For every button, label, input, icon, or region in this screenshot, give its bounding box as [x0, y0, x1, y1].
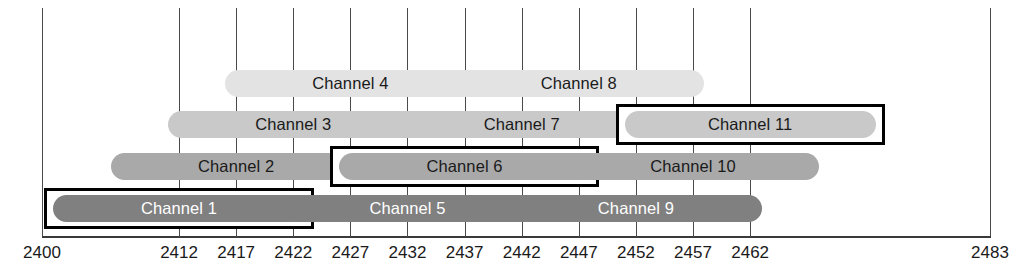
- tick-label-2427: 2427: [331, 243, 369, 263]
- tick-label-2447: 2447: [560, 243, 598, 263]
- tick-label-2462: 2462: [731, 243, 769, 263]
- channel-bar-channel-1[interactable]: Channel 1: [53, 195, 304, 222]
- axis-left-endcap: [42, 8, 43, 237]
- channel-bar-channel-2[interactable]: Channel 2: [111, 153, 362, 180]
- channel-bar-channel-9[interactable]: Channel 9: [510, 195, 761, 222]
- channel-bar-channel-7[interactable]: Channel 7: [396, 111, 647, 138]
- tick-label-2442: 2442: [503, 243, 541, 263]
- channel-bar-channel-3[interactable]: Channel 3: [168, 111, 419, 138]
- tick-label-2417: 2417: [217, 243, 255, 263]
- channel-bar-channel-5[interactable]: Channel 5: [282, 195, 533, 222]
- tick-label-2437: 2437: [446, 243, 484, 263]
- wlan-channel-chart: Channel 4Channel 8Channel 3Channel 7Chan…: [0, 0, 1033, 272]
- tick-label-2432: 2432: [389, 243, 427, 263]
- tick-label-2422: 2422: [274, 243, 312, 263]
- channel-bar-channel-6[interactable]: Channel 6: [339, 153, 590, 180]
- channel-bar-channel-10[interactable]: Channel 10: [567, 153, 818, 180]
- tick-label-2452: 2452: [617, 243, 655, 263]
- tick-label-2483: 2483: [971, 243, 1009, 263]
- axis-right-endcap: [990, 8, 991, 237]
- channel-bar-channel-4[interactable]: Channel 4: [225, 70, 476, 97]
- channel-bar-channel-8[interactable]: Channel 8: [453, 70, 704, 97]
- tick-label-2400: 2400: [23, 243, 61, 263]
- channel-bar-channel-11[interactable]: Channel 11: [625, 111, 876, 138]
- axis-baseline: [42, 236, 991, 238]
- tick-label-2457: 2457: [674, 243, 712, 263]
- tick-label-2412: 2412: [160, 243, 198, 263]
